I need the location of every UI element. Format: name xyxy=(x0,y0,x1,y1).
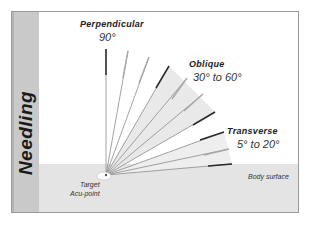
oblique-value: 30° to 60° xyxy=(193,71,242,83)
target-acupoint-marker xyxy=(97,172,111,180)
body-surface-label: Body surface xyxy=(248,173,289,180)
transverse-value: 5° to 20° xyxy=(237,138,279,150)
needle-angle-fan xyxy=(0,0,310,225)
insertion-point xyxy=(105,174,107,176)
target-label: Target xyxy=(80,181,100,188)
transverse-label: Transverse xyxy=(227,126,278,136)
perpendicular-value: 90° xyxy=(99,31,116,43)
perpendicular-label: Perpendicular xyxy=(80,19,144,29)
oblique-label: Oblique xyxy=(189,59,225,69)
acupoint-label: Acu-point xyxy=(70,190,100,197)
